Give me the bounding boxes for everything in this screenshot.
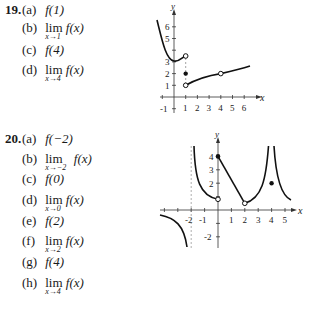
graph-20: x y -2 -1 1 2 3 4 5 -2 2 3 4 (0, 0, 309, 309)
svg-text:4: 4 (209, 152, 214, 162)
svg-text:5: 5 (283, 215, 288, 225)
svg-text:3: 3 (209, 165, 214, 175)
svg-text:3: 3 (256, 215, 261, 225)
svg-text:1: 1 (229, 215, 234, 225)
svg-text:4: 4 (269, 215, 274, 225)
y-axis-label: y (214, 129, 219, 139)
svg-text:-1: -1 (199, 215, 207, 225)
svg-text:-2: -2 (204, 232, 212, 242)
svg-text:2: 2 (209, 179, 214, 189)
x-axis-label: x (297, 205, 303, 216)
svg-text:2: 2 (243, 215, 248, 225)
